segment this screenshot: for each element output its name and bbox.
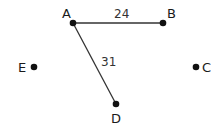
node-label-e: E xyxy=(18,60,26,75)
node-b xyxy=(160,20,167,27)
edge-weight-a-b: 24 xyxy=(114,7,129,21)
node-label-b: B xyxy=(167,6,176,21)
node-e xyxy=(31,64,38,71)
node-d xyxy=(113,101,120,108)
graph-diagram: A B C D E 24 31 xyxy=(0,0,221,133)
node-label-c: C xyxy=(202,60,211,75)
graph-svg: A B C D E 24 31 xyxy=(0,0,221,133)
edge-weight-a-d: 31 xyxy=(101,55,116,69)
node-label-a: A xyxy=(62,6,71,21)
node-label-d: D xyxy=(111,111,121,126)
node-c xyxy=(193,64,200,71)
